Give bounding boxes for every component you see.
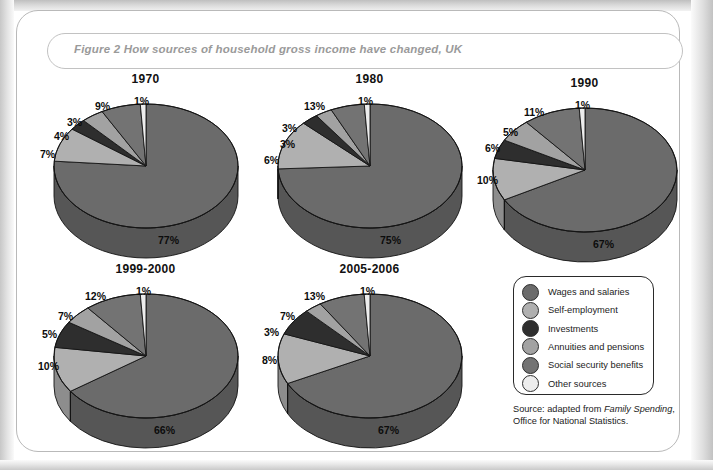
pie-slice-label: 77% — [158, 234, 179, 246]
pie-chart-1990: 199067%11%5%6%10%1% — [477, 76, 692, 271]
legend-label: Other sources — [548, 379, 606, 389]
legend-swatch-icon — [522, 357, 539, 374]
pie-slice-label: 8% — [262, 354, 277, 366]
pie-graphic: 67%13%7%3%8%1% — [262, 278, 477, 456]
legend-item-other-sources: Other sources — [522, 375, 606, 393]
pie-slice-label: 1% — [575, 99, 590, 111]
page-edge-right — [691, 0, 713, 470]
pie-slice-label: 13% — [304, 100, 325, 112]
legend-swatch-icon — [522, 284, 539, 301]
source-note: Source: adapted from Family Spending, Of… — [513, 404, 685, 427]
pie-slice-label: 3% — [280, 138, 295, 150]
pie-slice-label: 1% — [136, 285, 151, 297]
pie-chart-1970: 197077%9%3%4%7%1% — [38, 72, 253, 267]
legend-label: Annuities and pensions — [548, 342, 644, 352]
pie-slice-label: 67% — [378, 424, 399, 436]
page-edge-left — [0, 0, 14, 470]
pie-graphic: 77%9%3%4%7%1% — [38, 88, 253, 266]
scanned-page: Figure 2 How sources of household gross … — [0, 0, 713, 470]
pie-chart-1999-2000: 1999-200066%12%7%5%10%1% — [38, 262, 253, 457]
source-publication: Family Spending — [604, 404, 672, 414]
pie-slice-label: 7% — [40, 148, 55, 160]
page-edge-bottom — [0, 460, 713, 470]
pie-chart-2005-2006: 2005-200667%13%7%3%8%1% — [262, 262, 477, 457]
chart-title: 2005-2006 — [262, 262, 477, 276]
legend-swatch-icon — [522, 338, 539, 355]
pie-slice-label: 1% — [358, 95, 373, 107]
legend-item-annuities-and-pensions: Annuities and pensions — [522, 338, 644, 356]
pie-slice-label: 7% — [58, 310, 73, 322]
legend-swatch-icon — [522, 375, 539, 392]
pie-slice-label: 5% — [42, 328, 57, 340]
legend-item-social-security-benefits: Social security benefits — [522, 356, 643, 374]
chart-title: 1970 — [38, 72, 253, 86]
pie-slice-label: 6% — [485, 142, 500, 154]
legend-label: Wages and salaries — [548, 287, 629, 297]
pie-slice-label: 1% — [134, 95, 149, 107]
legend: Wages and salariesSelf-employmentInvestm… — [513, 276, 654, 395]
legend-item-wages-and-salaries: Wages and salaries — [522, 283, 629, 301]
figure-caption: Figure 2 How sources of household gross … — [74, 43, 462, 55]
pie-slice-label: 75% — [380, 234, 401, 246]
pie-graphic: 66%12%7%5%10%1% — [38, 278, 253, 456]
pie-slice-label: 10% — [477, 174, 498, 186]
pie-slice-label: 3% — [264, 326, 279, 338]
pie-graphic: 75%13%3%3%6%1% — [262, 88, 477, 266]
pie-slice-label: 9% — [95, 100, 110, 112]
chart-title: 1990 — [477, 76, 692, 90]
figure-caption-box: Figure 2 How sources of household gross … — [47, 33, 683, 69]
pie-slice-label: 3% — [282, 122, 297, 134]
legend-swatch-icon — [522, 302, 539, 319]
legend-item-investments: Investments — [522, 320, 598, 338]
pie-slice-label: 7% — [280, 310, 295, 322]
source-prefix: Source: adapted from — [513, 404, 604, 414]
legend-label: Social security benefits — [548, 360, 643, 370]
pie-slice-label: 66% — [154, 424, 175, 436]
pie-slice-label: 13% — [304, 290, 325, 302]
legend-item-self-employment: Self-employment — [522, 301, 618, 319]
pie-slice-label: 3% — [67, 116, 82, 128]
pie-slice-label: 1% — [360, 285, 375, 297]
legend-label: Self-employment — [548, 305, 618, 315]
pie-graphic: 67%11%5%6%10%1% — [477, 92, 692, 270]
pie-chart-1980: 198075%13%3%3%6%1% — [262, 72, 477, 267]
pie-slice-label: 12% — [85, 290, 106, 302]
legend-label: Investments — [548, 324, 598, 334]
pie-slice-label: 10% — [38, 360, 59, 372]
legend-swatch-icon — [522, 320, 539, 337]
pie-slice-label: 11% — [524, 106, 544, 118]
chart-title: 1980 — [262, 72, 477, 86]
chart-title: 1999-2000 — [38, 262, 253, 276]
pie-slice-label: 67% — [593, 238, 614, 250]
pie-slice-label: 4% — [54, 130, 69, 142]
pie-slice-label: 5% — [503, 126, 518, 138]
pie-slice-label: 6% — [264, 154, 279, 166]
